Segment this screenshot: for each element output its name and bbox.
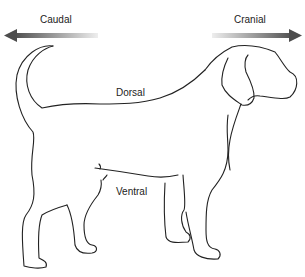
cranial-arrow-icon bbox=[212, 29, 302, 42]
dog-outline bbox=[16, 46, 297, 268]
cranial-label: Cranial bbox=[234, 14, 266, 25]
caudal-arrow-icon bbox=[4, 29, 98, 42]
ventral-label: Ventral bbox=[116, 186, 147, 197]
caudal-label: Caudal bbox=[40, 14, 72, 25]
dog-diagram bbox=[0, 0, 305, 277]
dorsal-label: Dorsal bbox=[116, 87, 145, 98]
